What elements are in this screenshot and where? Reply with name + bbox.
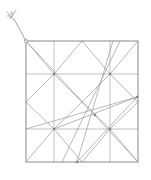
node-right-edge bbox=[136, 96, 138, 98]
diag-hub-tl-to-center bbox=[54, 74, 82, 102]
diag-hub-bl-to-bottom-left bbox=[26, 129, 54, 162]
diag-hub-br-to-bottom-edge bbox=[82, 129, 110, 162]
figure-root: 2,6 bbox=[0, 0, 151, 180]
dimension-label: 2,6 bbox=[6, 10, 15, 20]
hub-top-right bbox=[109, 73, 111, 75]
diag-hub-tl-to-top-edge bbox=[54, 41, 82, 74]
node-mid-lower bbox=[94, 114, 96, 116]
hub-bottom-left bbox=[53, 128, 55, 130]
diag-hub-tr-to-top-edge bbox=[82, 41, 110, 74]
diag-center-to-hub-bl bbox=[54, 102, 82, 129]
diagram-canvas: 2,6 bbox=[0, 0, 151, 180]
hub-bottom-right bbox=[109, 128, 111, 130]
chord-topright-long-descender bbox=[62, 41, 120, 162]
chord-hub-bl-to-right-node bbox=[54, 97, 137, 129]
diag-hub-tr-to-right-edge bbox=[110, 41, 138, 74]
leader-line bbox=[14, 19, 26, 41]
segments-group bbox=[26, 41, 138, 162]
diag-hub-br-to-bottom-right bbox=[110, 129, 138, 162]
hub-top-left bbox=[53, 73, 55, 75]
chord-right-node-to-bottom-node bbox=[77, 97, 137, 162]
node-bottom-edge bbox=[76, 161, 78, 163]
diag-hub-bl-to-bottom-edge bbox=[54, 129, 82, 162]
diag-hub-tl-to-left-edge bbox=[26, 74, 54, 102]
